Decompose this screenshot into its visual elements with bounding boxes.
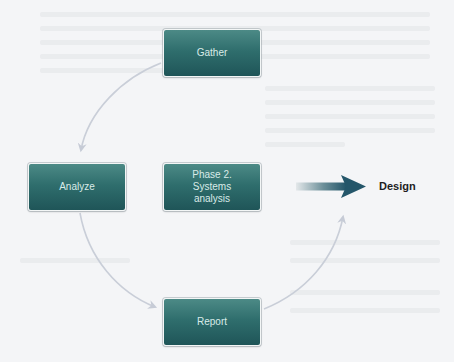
center-label-line-1: Phase 2. (192, 169, 231, 181)
connector-analyze-to-report (80, 213, 155, 307)
node-analyze-label: Analyze (59, 181, 95, 193)
node-analyze: Analyze (28, 163, 126, 211)
node-report-label: Report (197, 316, 227, 328)
design-output-label: Design (379, 180, 416, 192)
node-gather: Gather (163, 29, 261, 77)
node-report: Report (163, 298, 261, 346)
systems-analysis-cycle-diagram: Gather Analyze Phase 2. Systems analysis… (0, 0, 454, 362)
gradient-right-arrow-icon (296, 175, 366, 198)
center-label-line-2: Systems (193, 181, 231, 193)
connector-gather-to-analyze (81, 63, 161, 150)
center-label-line-3: analysis (194, 193, 230, 205)
connector-report-to-gather (264, 217, 343, 309)
node-gather-label: Gather (197, 47, 228, 59)
node-phase-2-systems-analysis: Phase 2. Systems analysis (163, 163, 261, 211)
